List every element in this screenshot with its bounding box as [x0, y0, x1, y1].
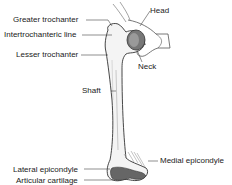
label-head: Head [150, 6, 169, 15]
label-neck: Neck [138, 62, 156, 71]
label-intertrochanteric-line: Intertrochanteric line [4, 30, 76, 39]
label-shaft: Shaft [82, 86, 101, 95]
label-articular-cartilage: Articular cartilage [16, 176, 78, 185]
label-medial-epicondyle: Medial epicondyle [160, 156, 224, 165]
label-lateral-epicondyle: Lateral epicondyle [13, 165, 78, 174]
label-lesser-trochanter: Lesser trochanter [16, 50, 78, 59]
label-greater-trochanter: Greater trochanter [13, 15, 78, 24]
